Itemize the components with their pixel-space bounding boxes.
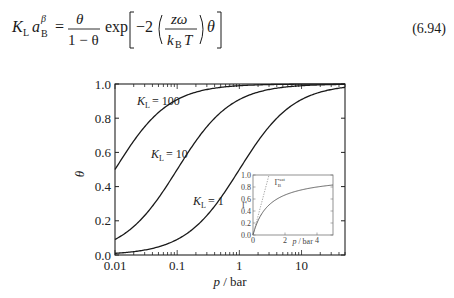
isotherm-chart: 0.00.20.40.60.81.00.010.1110 KL= 100KL= … xyxy=(0,0,454,298)
inset-y-axis-label: Γ xyxy=(242,201,247,210)
curve-labels: KL= 100KL= 10KL= 1 xyxy=(136,94,224,210)
curve-100 xyxy=(115,84,345,169)
x-tick-label: 10 xyxy=(295,258,308,273)
y-tick-label: 0.8 xyxy=(95,111,111,126)
inset-y-tick-label: 0.8 xyxy=(241,183,251,192)
y-tick-label: 0.6 xyxy=(95,145,112,160)
inset-y-tick-label: 0.0 xyxy=(241,231,251,240)
y-tick-label: 0.2 xyxy=(95,213,111,228)
x-tick-label: 1 xyxy=(236,258,243,273)
inset-x-tick-label: 4 xyxy=(315,236,319,245)
x-tick-label: 0.01 xyxy=(104,258,127,273)
curve-label-1: KL= 1 xyxy=(192,194,224,210)
inset-x-tick-label: 0 xyxy=(251,236,255,245)
inset-x-tick-label: 2 xyxy=(283,236,287,245)
inset-frame xyxy=(253,175,333,235)
inset-y-tick-label: 1.0 xyxy=(241,171,251,180)
inset-x-axis-label: p / bar xyxy=(291,237,313,246)
y-axis-label: θ xyxy=(72,170,87,177)
curve-label-100: KL= 100 xyxy=(136,94,180,110)
curve-label-10: KL= 10 xyxy=(150,147,188,163)
y-tick-label: 1.0 xyxy=(95,77,111,92)
inset-y-tick-label: 0.2 xyxy=(241,219,251,228)
x-axis-label: p / bar xyxy=(212,274,247,289)
inset-chart: 0.00.20.40.60.81.0024ΓsatBΓp / bar xyxy=(241,171,333,246)
y-tick-label: 0.4 xyxy=(95,179,112,194)
x-tick-label: 0.1 xyxy=(169,258,185,273)
